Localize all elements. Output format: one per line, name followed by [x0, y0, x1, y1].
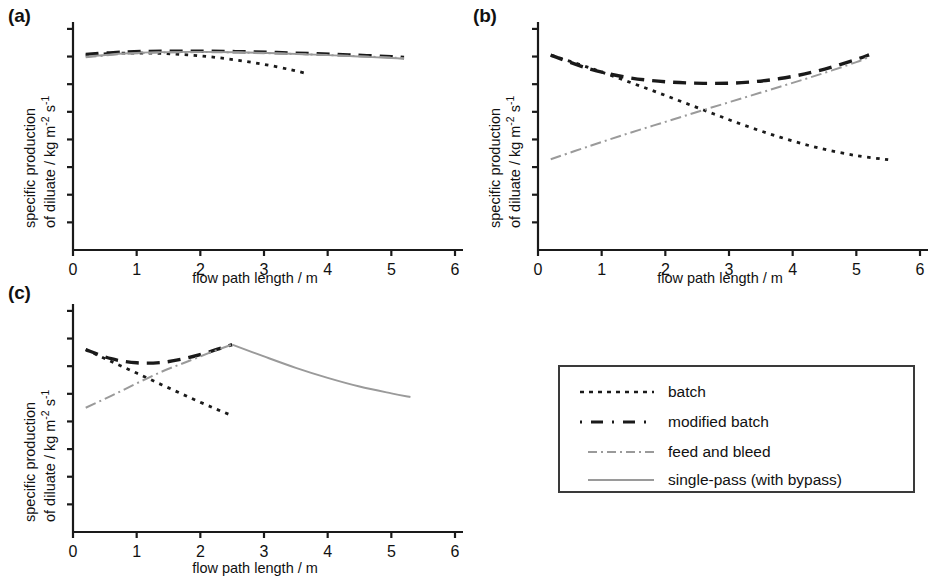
x-tick-label: 5: [387, 543, 396, 560]
x-tick-label: 6: [451, 543, 460, 560]
x-tick-label: 5: [387, 261, 396, 278]
x-tick-label: 1: [132, 543, 141, 560]
legend-label-batch: batch: [668, 383, 706, 401]
legend-label-feed-and-bleed: feed and bleed: [668, 443, 771, 461]
legend-swatch-single-pass: [578, 471, 656, 489]
legend: batch modified batch feed and bleed sing…: [558, 365, 915, 493]
panel-c-xlabel: flow path length / m: [150, 560, 360, 576]
x-tick-label: 6: [451, 261, 460, 278]
panel-c: (c) specific production of diluate / kg …: [0, 282, 465, 582]
legend-label-single-pass: single-pass (with bypass): [668, 471, 842, 489]
x-tick-label: 1: [597, 261, 606, 278]
panel-b-plot: 0123456: [465, 0, 930, 291]
figure-root: (a) specific production of diluate / kg …: [0, 0, 930, 582]
legend-label-modified-batch: modified batch: [668, 413, 769, 431]
series-line: [232, 345, 410, 397]
panel-b: (b) specific production of diluate / kg …: [465, 0, 930, 291]
series-line: [86, 53, 309, 74]
x-tick-label: 0: [69, 261, 78, 278]
x-tick-label: 3: [260, 543, 269, 560]
series-line: [86, 350, 232, 416]
legend-item-modified-batch: modified batch: [560, 409, 913, 435]
legend-swatch-batch: [578, 383, 656, 401]
series-line: [86, 345, 232, 408]
panel-c-plot: 0123456: [0, 282, 465, 582]
x-tick-label: 5: [852, 261, 861, 278]
legend-item-feed-and-bleed: feed and bleed: [560, 439, 913, 465]
x-tick-label: 6: [916, 261, 925, 278]
x-tick-label: 2: [196, 543, 205, 560]
series-line: [86, 52, 404, 59]
x-tick-label: 4: [323, 543, 332, 560]
panel-a: (a) specific production of diluate / kg …: [0, 0, 465, 291]
series-line: [551, 55, 869, 84]
series-line: [86, 345, 232, 364]
panel-b-xlabel: flow path length / m: [615, 270, 825, 286]
legend-swatch-modified-batch: [578, 413, 656, 431]
legend-item-batch: batch: [560, 379, 913, 405]
legend-swatch-feed-and-bleed: [578, 443, 656, 461]
panel-a-plot: 0123456: [0, 0, 465, 291]
legend-item-single-pass: single-pass (with bypass): [560, 467, 913, 493]
x-tick-label: 1: [132, 261, 141, 278]
x-tick-label: 0: [534, 261, 543, 278]
x-tick-label: 0: [69, 543, 78, 560]
